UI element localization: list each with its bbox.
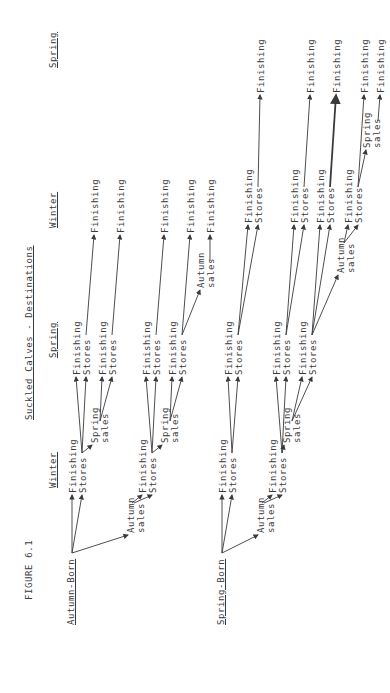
figure-page: FIGURE 6.1 Suckled Calves - Destinations… (0, 0, 390, 693)
diagram-arrows (0, 0, 390, 693)
